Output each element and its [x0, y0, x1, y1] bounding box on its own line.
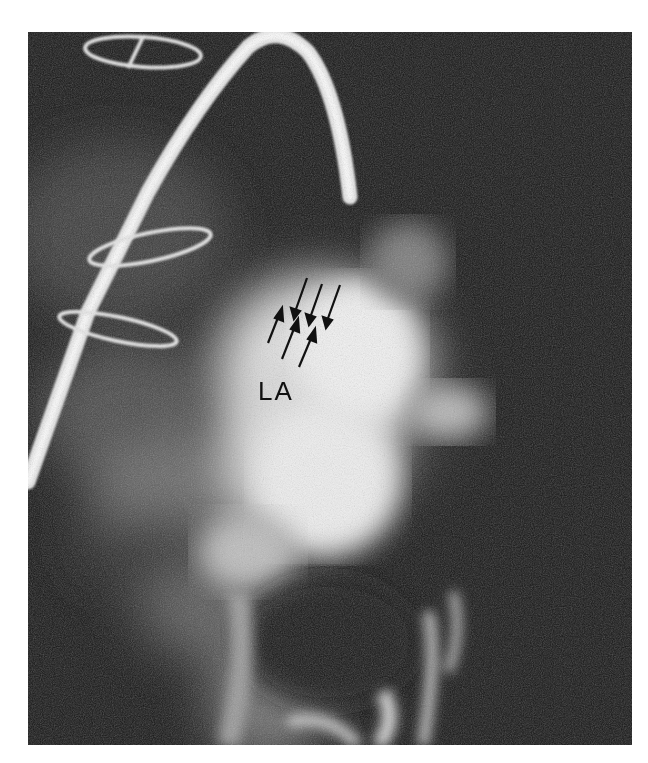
film-grain [28, 32, 632, 745]
la-label: LA [258, 378, 294, 404]
radiograph-svg [28, 32, 632, 745]
radiograph-image: LA [28, 32, 632, 745]
